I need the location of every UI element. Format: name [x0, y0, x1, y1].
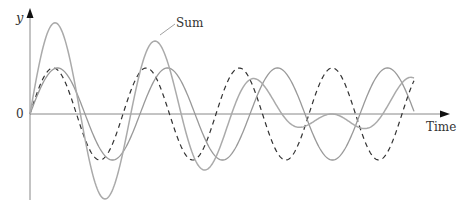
- beat-waves-diagram: y 0 Time Sum: [0, 0, 474, 215]
- origin-label: 0: [16, 107, 24, 121]
- sum-curve: [30, 23, 414, 199]
- y-axis-arrow-icon: [27, 8, 34, 18]
- sum-label: Sum: [176, 16, 204, 30]
- y-axis-label: y: [15, 10, 24, 25]
- x-axis-arrow-icon: [440, 111, 450, 118]
- x-axis-label: Time: [426, 120, 456, 134]
- sum-leader-line: [160, 24, 175, 35]
